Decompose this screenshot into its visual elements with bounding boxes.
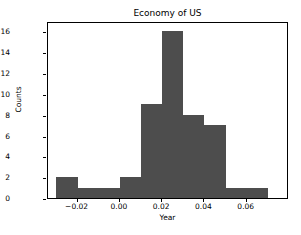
histogram-bar bbox=[120, 177, 141, 198]
y-tick-label: 0 bbox=[0, 195, 10, 203]
y-tick-label: 8 bbox=[0, 112, 10, 120]
x-tick-label: 0.02 bbox=[141, 202, 181, 211]
y-tick-mark bbox=[43, 53, 46, 54]
x-tick-mark bbox=[246, 199, 247, 202]
histogram-bar bbox=[204, 125, 225, 198]
y-tick-mark bbox=[43, 178, 46, 179]
x-axis-label: Year bbox=[47, 213, 288, 222]
histogram-figure: Economy of US 0246810121416 Counts −0.02… bbox=[0, 0, 301, 235]
histogram-bar bbox=[162, 31, 183, 198]
y-tick-mark bbox=[43, 116, 46, 117]
y-tick-mark bbox=[43, 137, 46, 138]
x-tick-mark bbox=[119, 199, 120, 202]
x-tick-mark bbox=[203, 199, 204, 202]
x-tick-label: 0.00 bbox=[99, 202, 139, 211]
y-tick-label: 10 bbox=[0, 91, 10, 99]
x-tick-label: 0.06 bbox=[226, 202, 266, 211]
y-tick-mark bbox=[43, 74, 46, 75]
x-tick-label: 0.04 bbox=[183, 202, 223, 211]
y-tick-label: 6 bbox=[0, 133, 10, 141]
bar-series bbox=[48, 23, 287, 198]
x-tick-mark bbox=[77, 199, 78, 202]
chart-title: Economy of US bbox=[47, 7, 288, 19]
histogram-bar bbox=[78, 188, 99, 198]
histogram-bar bbox=[247, 188, 268, 198]
x-tick-mark bbox=[161, 199, 162, 202]
y-tick-mark bbox=[43, 199, 46, 200]
y-tick-label: 14 bbox=[0, 49, 10, 57]
y-tick-mark bbox=[43, 32, 46, 33]
plot-area bbox=[47, 22, 288, 199]
y-tick-mark bbox=[43, 95, 46, 96]
y-tick-label: 2 bbox=[0, 174, 10, 182]
histogram-bar bbox=[183, 115, 204, 198]
y-tick-label: 12 bbox=[0, 70, 10, 78]
histogram-bar bbox=[226, 188, 247, 198]
histogram-bar bbox=[99, 188, 120, 198]
x-tick-label: −0.02 bbox=[57, 202, 97, 211]
y-tick-label: 16 bbox=[0, 28, 10, 36]
y-tick-label: 4 bbox=[0, 153, 10, 161]
histogram-bar bbox=[141, 104, 162, 198]
histogram-bar bbox=[56, 177, 77, 198]
y-tick-mark bbox=[43, 157, 46, 158]
y-axis-label: Counts bbox=[14, 70, 23, 130]
